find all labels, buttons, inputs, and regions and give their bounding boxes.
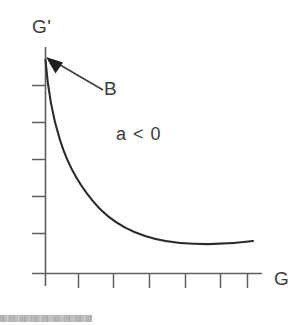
scan-artifact-strip — [0, 315, 92, 322]
plot-canvas — [0, 0, 305, 325]
region-condition-annotation: a < 0 — [116, 124, 162, 145]
y-axis-label: G' — [32, 16, 51, 38]
callout-leader-line — [59, 64, 104, 90]
y-axis-ticks — [32, 86, 45, 234]
x-axis-label: G — [274, 268, 289, 290]
figure-container: G' G B a < 0 — [0, 0, 305, 325]
x-axis-ticks — [79, 274, 248, 288]
callout-label-b: B — [104, 78, 117, 100]
data-curve — [46, 60, 254, 244]
callout-arrowhead-icon — [46, 57, 63, 74]
